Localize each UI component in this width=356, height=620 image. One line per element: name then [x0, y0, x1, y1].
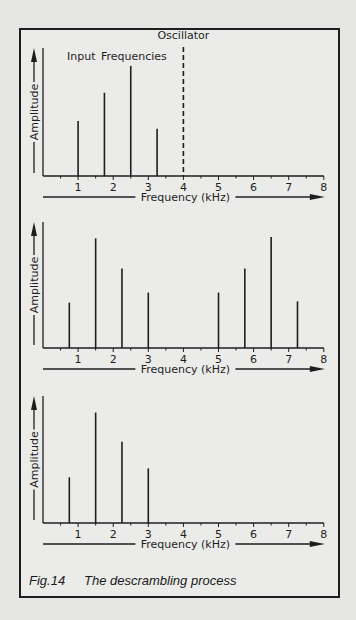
- x-tick-label: 2: [110, 353, 117, 366]
- figure-title: The descrambling process: [84, 573, 236, 588]
- x-tick-label: 1: [75, 353, 82, 366]
- arrow-right-icon: [310, 541, 325, 547]
- x-tick-label: 7: [285, 181, 292, 194]
- y-axis-label: Amplitude: [28, 84, 41, 141]
- x-axis-label: Frequency (kHz): [141, 191, 230, 204]
- y-axis-label: Amplitude: [28, 257, 41, 314]
- x-axis-label: Frequency (kHz): [141, 363, 230, 376]
- x-tick-label: 2: [110, 528, 117, 541]
- x-tick-label: 8: [320, 181, 327, 194]
- x-tick-label: 6: [250, 528, 257, 541]
- arrow-right-icon: [310, 366, 325, 372]
- x-tick-label: 6: [250, 181, 257, 194]
- arrow-up-icon: [31, 48, 37, 62]
- x-tick-label: 7: [285, 353, 292, 366]
- oscillator-label: Oscillator: [157, 29, 209, 42]
- x-tick-label: 1: [75, 528, 82, 541]
- x-tick-label: 8: [320, 528, 327, 541]
- x-tick-label: 2: [110, 181, 117, 194]
- y-axis-label: Amplitude: [28, 431, 41, 488]
- x-tick-label: 7: [285, 528, 292, 541]
- x-tick-label: 6: [250, 353, 257, 366]
- x-axis-label: Frequency (kHz): [141, 538, 230, 551]
- figure-number: Fig.14: [29, 573, 84, 588]
- arrow-up-icon: [31, 222, 37, 236]
- x-tick-label: 8: [320, 353, 327, 366]
- chart-title: Input Frequencies: [67, 50, 167, 63]
- arrow-up-icon: [31, 396, 37, 410]
- arrow-right-icon: [310, 194, 325, 200]
- x-tick-label: 1: [75, 181, 82, 194]
- spectrum-plots: 12345678AmplitudeFrequency (kHz)Oscillat…: [0, 0, 356, 620]
- figure-caption: Fig.14The descrambling process: [29, 573, 236, 588]
